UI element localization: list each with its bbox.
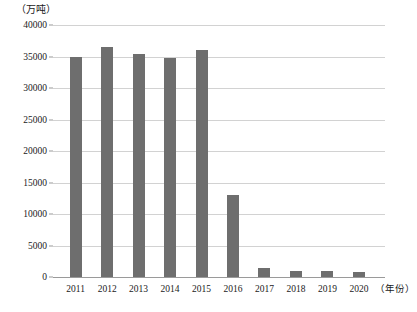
y-tick-label: 40000 bbox=[23, 20, 47, 30]
bar bbox=[164, 58, 176, 277]
y-tick-mark bbox=[49, 88, 53, 89]
x-tick-label: 2015 bbox=[192, 284, 211, 295]
x-tick-label: 2013 bbox=[129, 284, 148, 295]
y-tick-label: 0 bbox=[42, 272, 47, 282]
y-tick-label: 35000 bbox=[23, 52, 47, 62]
y-tick-mark bbox=[49, 25, 53, 26]
y-tick-mark bbox=[49, 277, 53, 278]
x-tick-label: 2020 bbox=[349, 284, 368, 295]
y-axis-unit-label: （万吨） bbox=[16, 4, 56, 16]
plot-area: 0500010000150002000025000300003500040000… bbox=[53, 25, 385, 277]
y-tick-label: 30000 bbox=[23, 83, 47, 93]
gridline bbox=[53, 277, 385, 278]
y-tick-mark bbox=[49, 119, 53, 120]
y-tick-label: 20000 bbox=[23, 146, 47, 156]
bar bbox=[321, 271, 333, 277]
x-tick-label: 2012 bbox=[98, 284, 117, 295]
bar bbox=[196, 50, 208, 277]
x-tick-label: 2016 bbox=[224, 284, 243, 295]
bar bbox=[353, 272, 365, 277]
y-tick-mark bbox=[49, 182, 53, 183]
y-tick-mark bbox=[49, 151, 53, 152]
bar bbox=[133, 54, 145, 277]
bar bbox=[227, 195, 239, 277]
x-tick-label: 2014 bbox=[161, 284, 180, 295]
y-tick-label: 10000 bbox=[23, 209, 47, 219]
y-tick-label: 5000 bbox=[28, 241, 47, 251]
bar bbox=[290, 271, 302, 277]
y-tick-mark bbox=[49, 56, 53, 57]
bar bbox=[258, 268, 270, 277]
gridline bbox=[53, 25, 385, 26]
x-tick-label: 2018 bbox=[286, 284, 305, 295]
y-tick-label: 25000 bbox=[23, 115, 47, 125]
bar bbox=[101, 47, 113, 277]
y-tick-mark bbox=[49, 245, 53, 246]
y-tick-label: 15000 bbox=[23, 178, 47, 188]
x-axis-title: （年份） bbox=[375, 284, 415, 295]
x-tick-label: 2011 bbox=[66, 284, 85, 295]
bar-chart: （万吨） 05000100001500020000250003000035000… bbox=[0, 0, 417, 312]
bar bbox=[70, 57, 82, 278]
x-tick-label: 2017 bbox=[255, 284, 274, 295]
y-tick-mark bbox=[49, 214, 53, 215]
x-tick-label: 2019 bbox=[318, 284, 337, 295]
